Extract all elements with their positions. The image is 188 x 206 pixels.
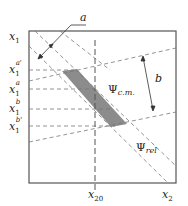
psi-cm-band bbox=[29, 48, 176, 142]
arrow-a bbox=[38, 25, 86, 59]
x-tick-x20: x20 bbox=[88, 188, 103, 203]
label-psi-rel: Ψrel bbox=[136, 141, 157, 155]
y-tick-b: x1b bbox=[9, 98, 21, 117]
psi-rel-lower bbox=[29, 46, 168, 183]
diagram-canvas: a b Ψc.m. Ψrel x1 x1a' x1a x1b x1b' x20 … bbox=[0, 0, 188, 206]
psi-rel-extra bbox=[60, 31, 110, 70]
x-axis-label: x2 bbox=[162, 188, 173, 203]
y-tick-b-prime: x1b' bbox=[9, 116, 22, 135]
arrow-b bbox=[141, 56, 155, 111]
y-tick-a-prime: x1a' bbox=[9, 59, 22, 78]
psi-cm-upper bbox=[29, 48, 176, 81]
label-b: b bbox=[155, 72, 162, 85]
y-tick-a: x1a bbox=[9, 79, 20, 98]
y-axis-label: x1 bbox=[9, 30, 20, 45]
label-a: a bbox=[80, 11, 87, 24]
label-psi-cm: Ψc.m. bbox=[108, 83, 135, 97]
